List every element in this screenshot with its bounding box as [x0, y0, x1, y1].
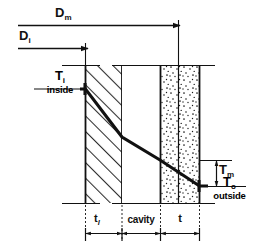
- cavity-wall-diagram: Dm Di Ti inside Tm To outside tl cavity …: [0, 0, 253, 251]
- label-inner-thickness: tl: [94, 213, 100, 224]
- label-temperature-outside-caption: outside: [206, 190, 253, 201]
- wall-layer-inner-leaf: [86, 66, 123, 203]
- label-overall-depth-symbol: D: [55, 5, 64, 20]
- label-temperature-outside: To outside: [206, 174, 253, 201]
- label-overall-depth-subscript: m: [64, 13, 71, 22]
- label-inner-depth-subscript: i: [28, 36, 30, 45]
- label-cavity-width: cavity: [127, 215, 154, 225]
- label-inner-thickness-subscript: l: [98, 218, 100, 227]
- label-overall-depth: Dm: [55, 6, 72, 19]
- label-temperature-outside-symbol-row: To: [206, 174, 253, 189]
- label-temperature-inside-symbol-row: Ti: [33, 68, 87, 83]
- label-inner-depth: Di: [19, 29, 31, 42]
- label-outer-thickness: t: [178, 213, 182, 224]
- label-outer-thickness-symbol: t: [178, 212, 182, 224]
- dimension-end-ticks: [86, 228, 200, 241]
- wall-layer-cavity: [122, 66, 160, 203]
- label-inner-depth-symbol: D: [19, 28, 28, 43]
- label-temperature-inside: Ti inside: [33, 68, 87, 95]
- label-temperature-inside-caption: inside: [33, 84, 87, 95]
- extension-lines-top: [86, 20, 179, 66]
